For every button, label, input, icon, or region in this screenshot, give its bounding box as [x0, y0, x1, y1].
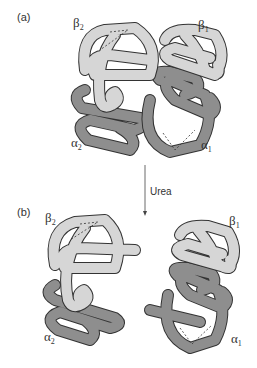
beta-symbol: β — [229, 213, 236, 228]
panel-a-beta2-label: β2 — [73, 16, 84, 32]
subscript: 1 — [238, 339, 242, 348]
beta-symbol: β — [45, 210, 52, 225]
subscript: 2 — [52, 218, 56, 227]
panel-b-beta2-chain — [54, 220, 135, 306]
subscript: 1 — [205, 25, 209, 34]
panel-a-tetramer — [77, 28, 222, 152]
panel-a-beta2-chain — [84, 28, 153, 107]
subscript: 1 — [208, 145, 212, 154]
panel-b-left-dimer — [49, 220, 136, 340]
panel-b-alpha2-label: α2 — [44, 330, 55, 346]
alpha-symbol: α — [201, 137, 208, 152]
hemoglobin-diagram: .b { fill:none; stroke:#333; stroke-widt… — [0, 0, 257, 368]
panel-b-beta2-label: β2 — [45, 211, 56, 227]
panel-b-label: (b) — [17, 207, 30, 218]
subscript: 2 — [78, 143, 82, 152]
panel-b-beta1-label: β1 — [229, 214, 240, 230]
panel-a-beta1-label: β1 — [198, 18, 209, 34]
subscript: 2 — [80, 23, 84, 32]
subscript: 1 — [236, 221, 240, 230]
alpha-symbol: α — [71, 135, 78, 150]
panel-a-alpha2-label: α2 — [71, 136, 82, 152]
urea-label: Urea — [150, 186, 172, 197]
urea-arrow — [143, 165, 147, 216]
alpha-symbol: α — [44, 329, 51, 344]
panel-b-alpha1-chain — [150, 268, 227, 348]
panel-a-alpha1-label: α1 — [201, 138, 212, 154]
beta-symbol: β — [73, 15, 80, 30]
panel-a-label: (a) — [17, 12, 30, 23]
panel-b-right-dimer — [150, 226, 234, 348]
alpha-symbol: α — [231, 331, 238, 346]
panel-b-alpha1-label: α1 — [231, 332, 242, 348]
panel-b-beta1-chain — [177, 226, 234, 268]
beta-symbol: β — [198, 17, 205, 32]
subscript: 2 — [51, 337, 55, 346]
